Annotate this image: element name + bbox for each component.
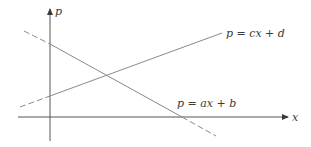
line-ab [24, 31, 216, 136]
diagram-canvas: p x p = cx + d p = ax + b [0, 0, 311, 147]
diagram-svg: p x p = cx + d p = ax + b [0, 0, 311, 147]
line-cd-label: p = cx + d [226, 27, 285, 40]
x-axis-label: x [292, 111, 299, 124]
line-ab-label: p = ax + b [177, 97, 236, 110]
y-axis-label: p [55, 5, 62, 18]
